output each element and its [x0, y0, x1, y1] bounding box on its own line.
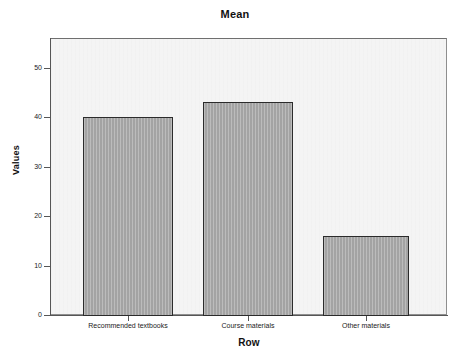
- chart-title: Mean: [0, 8, 470, 20]
- y-axis-line: [50, 38, 51, 316]
- y-tick-40: [44, 117, 50, 118]
- y-tick-label-0: 0: [20, 311, 42, 319]
- y-tick-label-10: 10: [20, 262, 42, 270]
- y-tick-20: [44, 216, 50, 217]
- bar-other-materials: [323, 236, 409, 316]
- x-axis-title: Row: [50, 337, 448, 348]
- y-tick-label-40: 40: [20, 113, 42, 121]
- x-tick-label-course-materials: Course materials: [188, 321, 308, 330]
- y-tick-50: [44, 68, 50, 69]
- y-tick-0: [44, 315, 50, 316]
- x-tick-label-other-materials: Other materials: [306, 321, 426, 330]
- x-tick-label-recommended-textbooks: Recommended textbooks: [63, 321, 193, 330]
- y-tick-label-50: 50: [20, 64, 42, 72]
- y-axis-title: Values: [11, 130, 21, 190]
- y-tick-label-20: 20: [20, 212, 42, 220]
- y-tick-label-30: 30: [20, 163, 42, 171]
- bar-course-materials: [203, 102, 293, 316]
- y-tick-10: [44, 266, 50, 267]
- bar-recommended-textbooks: [83, 117, 173, 316]
- bar-chart: Mean 50 40 30 20 10 0 Recommended textbo…: [0, 0, 470, 363]
- y-tick-30: [44, 167, 50, 168]
